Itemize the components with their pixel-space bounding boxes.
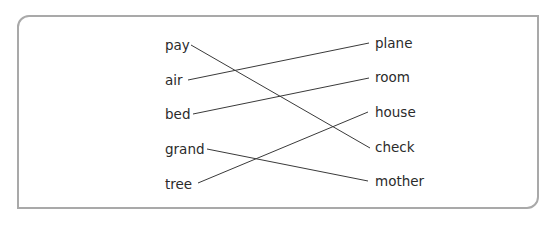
right-word-mother: mother bbox=[375, 173, 424, 189]
left-word-pay: pay bbox=[165, 37, 190, 53]
match-line-air-plane bbox=[188, 43, 369, 80]
right-word-check: check bbox=[375, 139, 415, 155]
left-word-tree: tree bbox=[165, 176, 192, 192]
right-word-plane: plane bbox=[375, 35, 412, 51]
match-line-bed-room bbox=[193, 78, 369, 114]
right-word-room: room bbox=[375, 69, 410, 85]
match-line-grand-mother bbox=[207, 149, 368, 181]
match-lines bbox=[0, 0, 559, 225]
left-word-bed: bed bbox=[165, 106, 190, 122]
match-line-tree-house bbox=[198, 112, 368, 183]
left-word-grand: grand bbox=[165, 141, 205, 157]
right-word-house: house bbox=[375, 104, 416, 120]
left-word-air: air bbox=[165, 72, 183, 88]
